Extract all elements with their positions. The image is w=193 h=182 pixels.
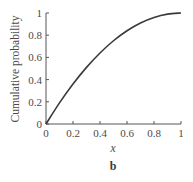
y-tick-label: 1 [37,7,43,19]
cumulative-probability-chart: 00.20.40.60.81 00.20.40.60.81 x Cumulati… [0,0,193,182]
cdf-curve [46,13,181,124]
y-tick-label: 0.4 [28,74,42,86]
x-tick-label: 0.8 [147,127,161,139]
y-tick-label: 0.8 [28,29,42,41]
x-tick-label: 1 [178,127,184,139]
x-tick-label: 0.4 [93,127,107,139]
x-axis-label: x [109,142,116,154]
x-tick-label: 0.2 [66,127,80,139]
y-axis-label: Cumulative probability [9,15,22,122]
x-tick-label: 0 [43,127,49,139]
x-tick-label: 0.6 [120,127,134,139]
y-tick-label: 0 [37,118,43,130]
panel-label: b [110,159,117,173]
axes [46,13,181,124]
y-tick-label: 0.2 [28,96,42,108]
y-tick-label: 0.6 [28,51,42,63]
